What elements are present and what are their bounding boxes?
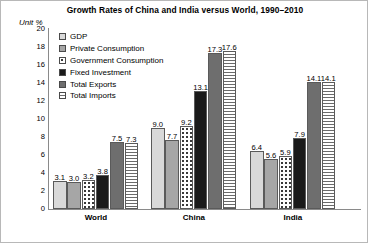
bar-world-total-imports: 7.3 (125, 143, 139, 209)
x-axis-line (48, 209, 361, 210)
bar-china-total-imports: 17.6 (223, 51, 237, 209)
bar-world-government-consumption: 3.2 (82, 180, 96, 209)
bar-value-label: 5.9 (280, 148, 291, 157)
y-tick-4: 4 (25, 168, 45, 177)
bar-group-india: 6.45.65.97.914.114.1 (250, 29, 336, 209)
y-tick-0: 0 (25, 204, 45, 213)
bar-value-label: 7.3 (126, 135, 137, 144)
bar-india-total-exports: 14.1 (307, 82, 321, 209)
y-tick-8: 8 (25, 132, 45, 141)
chart-title: Growth Rates of China and India versus W… (1, 5, 368, 15)
legend-swatch-icon (59, 69, 66, 76)
bar-group-china: 9.07.79.213.117.317.6 (151, 29, 237, 209)
bar-china-private-consumption: 7.7 (165, 140, 179, 209)
legend-swatch-icon (59, 81, 66, 88)
bar-value-label: 3.2 (83, 172, 94, 181)
bar-china-total-exports: 17.3 (208, 53, 222, 209)
legend-item-government-consumption[interactable]: Government Consumption (59, 55, 163, 67)
legend-label: Total Imports (70, 91, 116, 100)
bar-value-label: 7.9 (294, 130, 305, 139)
bar-value-label: 5.6 (266, 151, 277, 160)
group-label-india: India (250, 213, 336, 222)
bar-china-government-consumption: 9.2 (180, 126, 194, 209)
bar-china-fixed-investment: 13.1 (194, 91, 208, 209)
bar-value-label: 17.3 (208, 45, 223, 54)
bar-value-label: 17.6 (222, 43, 237, 52)
legend-item-total-exports[interactable]: Total Exports (59, 78, 163, 90)
y-tick-20: 20 (25, 24, 45, 33)
bar-value-label: 9.0 (152, 120, 163, 129)
y-tick-18: 18 (25, 42, 45, 51)
y-tick-6: 6 (25, 150, 45, 159)
bar-india-gdp: 6.4 (250, 151, 264, 209)
bar-value-label: 13.1 (193, 83, 208, 92)
y-tick-10: 10 (25, 114, 45, 123)
legend-label: Total Exports (70, 80, 116, 89)
bar-india-private-consumption: 5.6 (264, 159, 278, 209)
legend-swatch-icon (59, 45, 66, 52)
legend-label: Government Consumption (70, 56, 163, 65)
bar-india-government-consumption: 5.9 (279, 156, 293, 209)
legend-label: GDP (70, 32, 87, 41)
legend-item-private-consumption[interactable]: Private Consumption (59, 43, 163, 55)
bar-world-total-exports: 7.5 (110, 142, 124, 210)
bar-india-total-imports: 14.1 (322, 82, 336, 209)
group-label-world: World (53, 213, 139, 222)
bar-world-private-consumption: 3.0 (67, 182, 81, 209)
bar-world-fixed-investment: 3.8 (96, 175, 110, 209)
bar-value-label: 14.1 (307, 74, 322, 83)
bar-value-label: 3.1 (54, 173, 65, 182)
y-tick-12: 12 (25, 96, 45, 105)
bar-world-gdp: 3.1 (53, 181, 67, 209)
bar-value-label: 7.7 (167, 132, 178, 141)
chart-frame: Growth Rates of China and India versus W… (0, 0, 368, 243)
group-label-china: China (151, 213, 237, 222)
legend-swatch-icon (59, 33, 66, 40)
bar-value-label: 7.5 (112, 134, 123, 143)
y-tick-2: 2 (25, 186, 45, 195)
bar-value-label: 14.1 (321, 74, 336, 83)
chart-legend: GDPPrivate ConsumptionGovernment Consump… (59, 31, 163, 102)
bar-china-gdp: 9.0 (151, 128, 165, 209)
legend-swatch-icon (59, 57, 66, 64)
y-tick-14: 14 (25, 78, 45, 87)
bar-value-label: 9.2 (181, 118, 192, 127)
legend-item-gdp[interactable]: GDP (59, 31, 163, 43)
bar-value-label: 3.0 (69, 174, 80, 183)
legend-label: Fixed Investment (70, 68, 131, 77)
legend-item-fixed-investment[interactable]: Fixed Investment (59, 66, 163, 78)
legend-swatch-icon (59, 92, 66, 99)
bar-value-label: 3.8 (97, 167, 108, 176)
y-tick-16: 16 (25, 60, 45, 69)
legend-label: Private Consumption (70, 44, 144, 53)
bar-india-fixed-investment: 7.9 (293, 138, 307, 209)
legend-item-total-imports[interactable]: Total Imports (59, 90, 163, 102)
bar-value-label: 6.4 (251, 143, 262, 152)
